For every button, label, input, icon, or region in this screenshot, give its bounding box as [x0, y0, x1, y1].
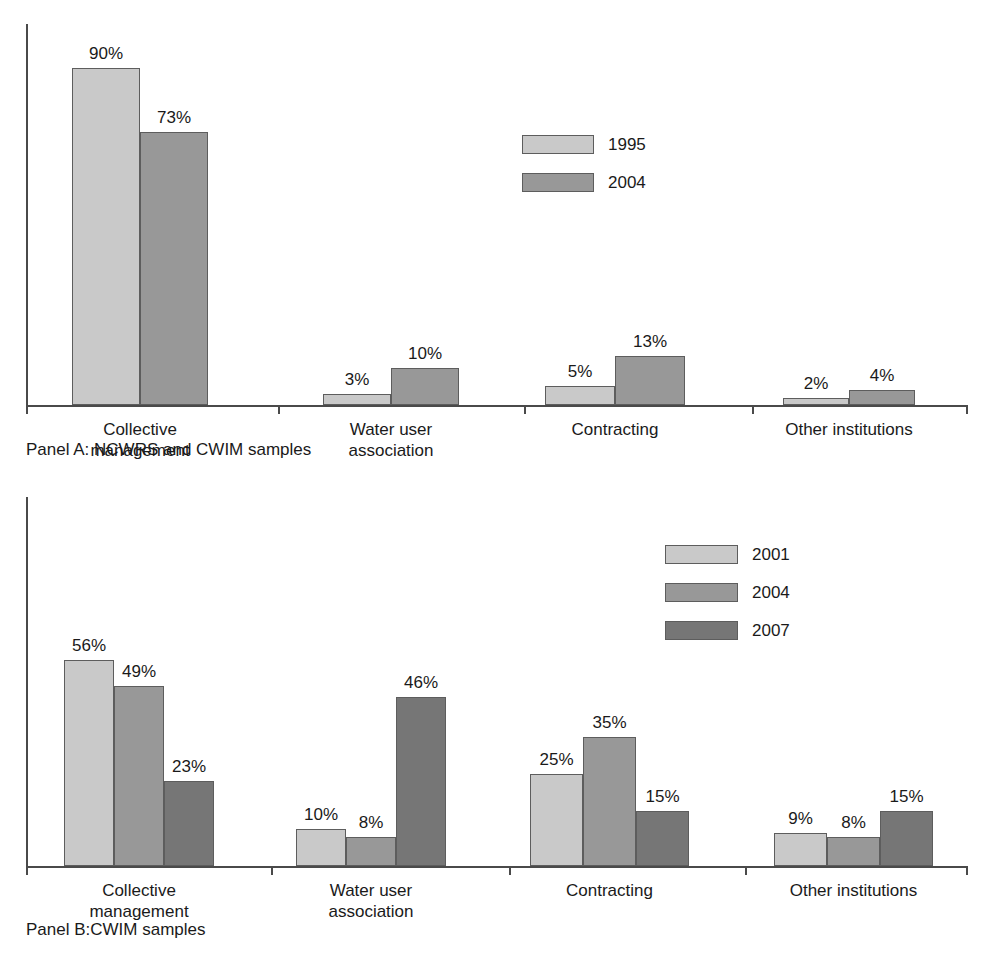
category-label: Other institutions — [739, 419, 959, 440]
panel-b: 56%49%23%Collectivemanagement10%8%46%Wat… — [0, 484, 988, 968]
bar — [396, 697, 446, 866]
category-label-line: Water user — [261, 880, 481, 901]
legend-label: 2001 — [752, 542, 790, 567]
category-label-line: management — [29, 901, 249, 922]
figure-bar-charts: 90%73%Collectivemanagement3%10%Water use… — [0, 0, 988, 968]
bar-value-label: 23% — [150, 757, 228, 777]
bar-value-label: 15% — [866, 787, 947, 807]
category-label-line: Collective — [30, 419, 250, 440]
legend-label: 2004 — [752, 580, 790, 605]
axis-tick — [966, 405, 968, 414]
category-label: Water userassociation — [261, 880, 481, 922]
bar — [783, 398, 849, 405]
bar — [880, 811, 933, 866]
bar-value-label: 73% — [126, 108, 222, 128]
axis-tick — [26, 866, 28, 875]
bar — [636, 811, 689, 866]
category-label-line: Contracting — [505, 419, 725, 440]
category-label-line: Collective — [29, 880, 249, 901]
bar-value-label: 15% — [622, 787, 703, 807]
panel-a-caption: Panel A: NCWRS and CWIM samples — [26, 440, 311, 460]
axis-tick — [26, 405, 28, 414]
category-label: Water userassociation — [281, 419, 501, 461]
category-label-line: Other institutions — [744, 880, 964, 901]
category-label: Other institutions — [744, 880, 964, 901]
legend-swatch — [665, 583, 738, 602]
x-axis-line — [26, 866, 968, 868]
y-axis-line — [26, 24, 28, 405]
axis-tick — [752, 405, 754, 414]
x-axis-line — [26, 405, 968, 407]
bar-value-label: 46% — [382, 673, 460, 693]
bar — [827, 837, 880, 866]
bar — [615, 356, 685, 405]
axis-tick — [745, 866, 747, 875]
bar — [391, 368, 459, 405]
category-label-line: association — [281, 440, 501, 461]
legend-swatch — [522, 173, 594, 192]
bar — [346, 837, 396, 866]
bar — [64, 660, 114, 866]
panel-b-caption: Panel B:CWIM samples — [26, 920, 206, 940]
category-label-line: Other institutions — [739, 419, 959, 440]
axis-tick — [271, 866, 273, 875]
y-axis-line — [26, 497, 28, 866]
category-label: Contracting — [505, 419, 725, 440]
axis-tick — [524, 405, 526, 414]
panel-a: 90%73%Collectivemanagement3%10%Water use… — [0, 0, 988, 484]
bar — [164, 781, 214, 866]
bar-value-label: 35% — [569, 713, 650, 733]
legend-label: 2007 — [752, 618, 790, 643]
category-label: Contracting — [500, 880, 720, 901]
category-label-line: Water user — [281, 419, 501, 440]
axis-tick — [509, 866, 511, 875]
legend-swatch — [665, 621, 738, 640]
bar-value-label: 90% — [58, 44, 154, 64]
bar-value-label: 13% — [601, 332, 699, 352]
bar-value-label: 49% — [100, 662, 178, 682]
bar — [530, 774, 583, 866]
legend-label: 2004 — [608, 170, 646, 195]
category-label-line: Contracting — [500, 880, 720, 901]
axis-tick — [966, 866, 968, 875]
legend-swatch — [665, 545, 738, 564]
bar — [774, 833, 827, 866]
legend-label: 1995 — [608, 132, 646, 157]
bar — [323, 394, 391, 405]
bar — [296, 829, 346, 866]
bar-value-label: 4% — [835, 366, 929, 386]
bar — [849, 390, 915, 405]
category-label: Collectivemanagement — [29, 880, 249, 922]
bar-value-label: 56% — [50, 636, 128, 656]
category-label-line: association — [261, 901, 481, 922]
bar — [545, 386, 615, 405]
legend-swatch — [522, 135, 594, 154]
axis-tick — [278, 405, 280, 414]
bar-value-label: 10% — [377, 344, 473, 364]
bar — [140, 132, 208, 405]
